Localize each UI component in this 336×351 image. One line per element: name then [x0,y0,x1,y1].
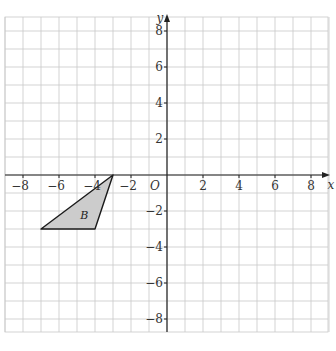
y-tick-label: −4 [145,240,163,254]
y-tick-label: 4 [155,96,163,110]
x-tick-label: 6 [271,179,279,193]
y-tick-label: −8 [145,312,163,326]
triangle-b-label: B [79,209,88,222]
axes [5,14,330,332]
y-tick-label: −6 [145,276,163,290]
x-tick-label: −6 [47,179,65,193]
x-tick-label: −4 [83,179,101,193]
origin-label: O [150,179,160,193]
x-tick-label: −8 [11,179,29,193]
y-axis-label: y [156,11,164,25]
y-tick-label: 2 [155,132,163,146]
x-axis-label: x [328,178,335,192]
x-tick-label: 4 [235,179,243,193]
coordinate-grid-figure: B −8−6−4−224688642−2−4−6−8Oxy [0,0,336,351]
y-tick-label: −2 [145,204,163,218]
y-tick-label: 6 [155,60,163,74]
axis-labels: −8−6−4−224688642−2−4−6−8Oxy [11,11,334,326]
x-tick-label: −2 [119,179,137,193]
x-tick-label: 2 [199,179,207,193]
x-tick-label: 8 [307,179,315,193]
y-axis-arrow-icon [164,14,170,22]
y-tick-label: 8 [155,24,163,38]
